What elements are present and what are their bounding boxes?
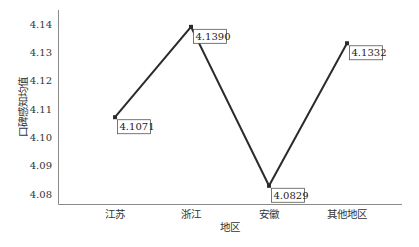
x-category-label: 安徽 [259,208,280,220]
x-axis-title: 地区 [220,221,240,233]
data-point-marker [189,25,193,29]
data-label: 4.1332 [350,46,387,60]
data-labels: 4.10714.13904.08294.1332 [118,29,387,202]
y-tick-label: 4.10 [30,132,52,143]
x-category-label: 其他地区 [327,208,367,220]
series-line [115,27,347,186]
data-label-text: 4.1332 [352,47,387,58]
y-tick-label: 4.09 [30,160,52,171]
x-category-label: 江苏 [105,208,125,220]
data-label: 4.0829 [272,188,309,202]
y-tick-label: 4.14 [30,19,52,30]
y-tick-label: 4.12 [30,75,52,86]
data-point-marker [267,184,271,188]
y-axis-title: 口碑感知均值 [17,76,29,137]
x-category-label: 浙江 [181,208,202,220]
data-point-marker [345,41,349,45]
data-label: 4.1071 [118,120,155,134]
data-label-text: 4.1071 [120,121,155,132]
data-point-marker [113,115,117,119]
y-tick-label: 4.08 [30,189,52,200]
x-category-labels: 江苏浙江安徽其他地区 [105,208,367,220]
y-tick-label: 4.11 [30,104,52,115]
y-tick-labels: 4.084.094.104.114.124.134.14 [30,19,52,200]
data-label: 4.1390 [194,29,231,43]
data-label-text: 4.1390 [196,31,231,42]
data-label-text: 4.0829 [274,190,309,201]
line-chart: 4.084.094.104.114.124.134.14 江苏浙江安徽其他地区 … [0,0,419,247]
y-tick-label: 4.13 [30,47,52,58]
